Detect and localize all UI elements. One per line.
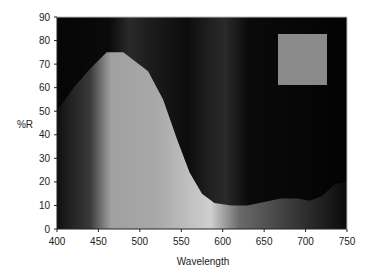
y-tick-label: 40 [39, 129, 51, 140]
x-tick-label: 450 [90, 236, 107, 247]
y-tick-label: 60 [39, 82, 51, 93]
reflectance-chart: 0102030405060708090 40045050055060065070… [0, 0, 372, 272]
y-tick-label: 90 [39, 12, 51, 23]
x-tick-label: 600 [214, 236, 231, 247]
y-tick-label: 20 [39, 176, 51, 187]
x-tick-label: 400 [49, 236, 66, 247]
x-tick-label: 550 [173, 236, 190, 247]
y-tick-label: 10 [39, 200, 51, 211]
legend-swatch [278, 34, 327, 85]
y-tick-label: 50 [39, 106, 51, 117]
x-tick-label: 700 [297, 236, 314, 247]
y-tick-label: 80 [39, 35, 51, 46]
y-tick-label: 30 [39, 153, 51, 164]
y-axis: 0102030405060708090 [39, 12, 57, 235]
x-tick-label: 500 [132, 236, 149, 247]
x-tick-label: 750 [339, 236, 356, 247]
y-tick-label: 70 [39, 59, 51, 70]
x-axis: 400450500550600650700750 [49, 229, 356, 247]
x-axis-title: Wavelength [177, 256, 229, 267]
x-tick-label: 650 [256, 236, 273, 247]
y-axis-title: %R [17, 119, 33, 130]
y-tick-label: 0 [44, 224, 50, 235]
